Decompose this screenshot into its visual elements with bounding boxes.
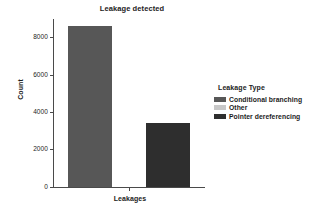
legend-label: Other xyxy=(229,104,247,111)
x-axis-label: Leakages xyxy=(70,195,190,202)
legend: Leakage Type Conditional branchingOtherP… xyxy=(214,84,320,121)
legend-label: Pointer dereferencing xyxy=(229,113,300,120)
y-axis-tick-label: 0 xyxy=(44,183,48,190)
bar xyxy=(146,123,190,187)
chart-figure: Leakage detected 02000400060008000 Leaka… xyxy=(0,0,320,217)
plot-area xyxy=(53,19,205,187)
legend-swatch xyxy=(214,105,226,110)
legend-swatch xyxy=(214,114,226,119)
y-axis-label: Count xyxy=(17,68,24,112)
legend-title: Leakage Type xyxy=(218,84,320,91)
legend-item[interactable]: Pointer dereferencing xyxy=(214,112,320,120)
y-axis-tick-label: 2000 xyxy=(33,145,48,152)
legend-label: Conditional branching xyxy=(229,96,302,103)
legend-entries: Conditional branchingOtherPointer derefe… xyxy=(214,95,320,120)
y-axis-tick-label: 8000 xyxy=(33,33,48,40)
legend-item[interactable]: Conditional branching xyxy=(214,95,320,103)
legend-item[interactable]: Other xyxy=(214,104,320,112)
chart-title: Leakage detected xyxy=(52,4,212,13)
y-axis-tick-label: 6000 xyxy=(33,71,48,78)
bar xyxy=(68,26,112,187)
legend-swatch xyxy=(214,97,226,102)
x-axis-tick-mark xyxy=(129,188,130,191)
y-axis-tick-label: 4000 xyxy=(33,108,48,115)
